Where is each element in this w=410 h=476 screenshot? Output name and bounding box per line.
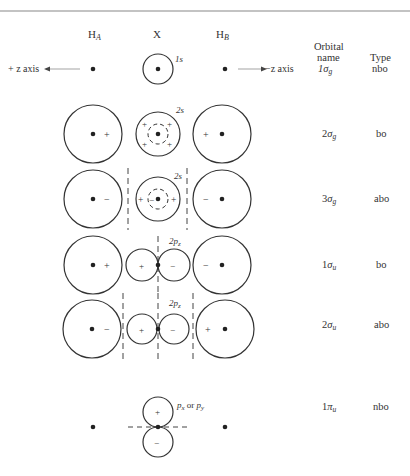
row-2sigma-u: − + − 2pz + 2σu abo — [63, 293, 389, 362]
orbital-type: abo — [374, 193, 389, 204]
ha-nucleus — [91, 263, 96, 268]
x-phase-sign: + — [167, 119, 172, 129]
orbital-type: bo — [376, 128, 387, 139]
ha-nucleus — [91, 67, 96, 72]
orbital-name: 2σg — [322, 128, 336, 141]
header-orbital-name-2: name — [317, 52, 340, 63]
x-orbital-label: 2s — [174, 171, 183, 181]
x-phase-sign: + — [171, 195, 176, 205]
orbital-name: 3σg — [322, 193, 336, 206]
x-phase-sign: + — [139, 261, 144, 271]
hb-nucleus — [223, 67, 228, 72]
row-1sigma-u: + + − 2pz − 1σu bo — [64, 236, 387, 294]
orbital-name: 1πu — [322, 401, 337, 414]
orbital-name: 2σu — [322, 319, 336, 332]
ha-phase-sign: + — [104, 129, 110, 140]
x-orbital-label: 1s — [175, 54, 184, 64]
x-orbital-label: 2pz — [169, 298, 181, 310]
x-nucleus — [156, 425, 161, 430]
row-1pi-u: + − px or py 1πu nbo — [91, 397, 389, 457]
ha-nucleus — [91, 197, 96, 202]
x-orbital-label: 2s — [176, 105, 185, 115]
ha-nucleus — [91, 425, 96, 430]
hb-nucleus — [223, 425, 228, 430]
x-nucleus — [156, 263, 161, 268]
hb-phase-sign: − — [203, 194, 209, 205]
x-phase-sign: + — [142, 139, 147, 149]
x-phase-sign: + — [167, 139, 172, 149]
orbital-type: bo — [376, 259, 387, 270]
x-nucleus — [156, 327, 161, 332]
molecular-orbital-diagram: HA X HB Orbital name Type + z axis 1s −z… — [0, 0, 410, 476]
x-nucleus — [156, 67, 161, 72]
row-2sigma-g: + + + + + 2s + 2σg bo — [64, 105, 387, 163]
x-orbital-label: 2pz — [169, 236, 181, 248]
ha-nucleus — [91, 132, 96, 137]
header-hb: HB — [216, 28, 229, 42]
hb-nucleus — [220, 132, 225, 137]
hb-nucleus — [220, 263, 225, 268]
x-phase-sign: + — [138, 195, 143, 205]
x-nucleus — [156, 197, 161, 202]
x-phase-sign: + — [155, 407, 160, 417]
header-ha: HA — [88, 28, 101, 42]
orbital-name: 1σg — [318, 63, 332, 76]
x-phase-sign: − — [170, 261, 175, 271]
arrow-left-icon — [44, 67, 50, 72]
x-phase-sign: + — [142, 119, 147, 129]
x-orbital-label: px or py — [176, 400, 205, 412]
orbital-name: 1σu — [322, 259, 336, 272]
header-type: Type — [370, 52, 391, 63]
hb-phase-sign: + — [205, 324, 211, 335]
x-phase-sign: − — [154, 438, 159, 448]
minus-z-axis-label: −z axis — [265, 63, 294, 74]
hb-phase-sign: + — [203, 129, 209, 140]
row-3sigma-g: − + − + 2s − 3σg abo — [64, 168, 389, 230]
hb-nucleus — [223, 327, 228, 332]
orbital-type: nbo — [372, 63, 388, 74]
ha-phase-sign: + — [104, 260, 110, 271]
header-x: X — [153, 28, 161, 40]
ha-phase-sign: − — [104, 194, 110, 205]
x-phase-sign: − — [149, 195, 154, 205]
orbital-type: nbo — [373, 401, 389, 412]
x-phase-sign: + — [139, 325, 144, 335]
plus-z-axis-label: + z axis — [8, 63, 39, 74]
orbital-type: abo — [374, 319, 389, 330]
x-phase-sign: − — [170, 325, 175, 335]
hb-nucleus — [220, 197, 225, 202]
x-nucleus — [156, 132, 161, 137]
ha-nucleus — [90, 327, 95, 332]
header-orbital-name-1: Orbital — [314, 41, 344, 52]
ha-phase-sign: − — [104, 324, 110, 335]
hb-phase-sign: − — [203, 260, 209, 271]
